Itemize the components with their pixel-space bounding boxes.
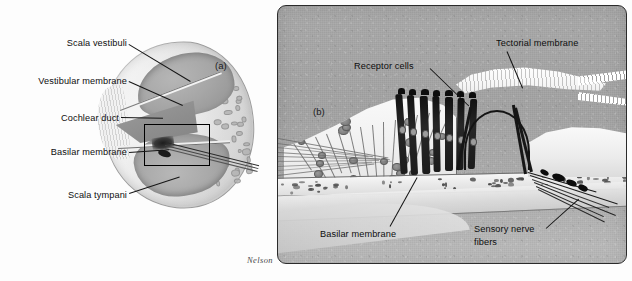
basilar-speckle bbox=[503, 182, 508, 184]
hair-cell-nucleus bbox=[399, 126, 406, 134]
basilar-speckle bbox=[292, 183, 298, 186]
basilar-speckle bbox=[281, 183, 284, 185]
artist-signature: Nelson bbox=[247, 255, 273, 265]
bone-speckle bbox=[243, 142, 250, 147]
hair-cell-nucleus bbox=[446, 134, 453, 142]
bone-speckle bbox=[224, 109, 233, 115]
hair-cell-nucleus bbox=[434, 132, 441, 140]
label-receptor-cells: Receptor cells bbox=[354, 61, 414, 72]
basilar-speckle bbox=[345, 185, 348, 189]
basilar-speckle bbox=[382, 181, 385, 185]
bone-speckle bbox=[221, 123, 229, 130]
bone-speckle bbox=[235, 131, 243, 137]
basilar-speckle bbox=[308, 185, 313, 187]
basilar-speckle bbox=[290, 191, 292, 194]
bone-speckle bbox=[236, 96, 243, 101]
stereocilia-tuft bbox=[409, 89, 416, 95]
bone-speckle bbox=[242, 148, 251, 156]
basilar-speckle bbox=[444, 182, 446, 186]
label-basilar-membrane: Basilar membrane bbox=[0, 147, 127, 158]
basilar-speckle bbox=[398, 181, 403, 183]
basilar-speckle bbox=[487, 183, 490, 185]
basilar-speckle bbox=[315, 181, 318, 183]
basilar-speckle bbox=[437, 179, 442, 181]
label-vestibular-membrane: Vestibular membrane bbox=[0, 76, 127, 87]
basilar-speckle bbox=[333, 185, 338, 188]
stereocilia-tuft bbox=[398, 88, 405, 94]
label-scala-tympani: Scala tympani bbox=[0, 190, 127, 201]
basilar-speckle bbox=[299, 181, 304, 183]
magnified-region-box bbox=[144, 124, 210, 166]
basilar-speckle bbox=[309, 188, 315, 191]
hair-cell-nucleus bbox=[422, 130, 429, 138]
label-cochlear-duct: Cochlear duct bbox=[0, 113, 119, 124]
basilar-speckle bbox=[317, 191, 320, 194]
basilar-speckle bbox=[494, 179, 499, 182]
hair-cell-nucleus bbox=[410, 128, 417, 136]
stereocilia-tuft bbox=[445, 90, 453, 96]
bone-speckle bbox=[233, 178, 240, 184]
label-sensory-nerve-fibers-line1: Sensory nerve bbox=[474, 224, 535, 235]
stereocilia-tuft bbox=[469, 92, 476, 98]
basilar-speckle bbox=[315, 184, 321, 187]
stereocilia-tuft bbox=[433, 90, 440, 96]
hair-cell-column bbox=[395, 94, 407, 174]
basilar-speckle bbox=[389, 182, 391, 184]
cochlea-illustration bbox=[96, 38, 256, 213]
stereocilia-tuft bbox=[421, 89, 429, 95]
panel-a-tag: (a) bbox=[215, 60, 227, 71]
panel-a-cochlea-cross-section: (a) Scala vestibuli Vestibular membrane … bbox=[0, 0, 275, 281]
label-sensory-nerve-fibers-line2: fibers bbox=[474, 237, 497, 248]
bone-speckle bbox=[235, 105, 241, 111]
basilar-speckle bbox=[441, 183, 444, 186]
sensory-nerve-fiber-bundle bbox=[526, 168, 627, 198]
label-scala-vestibuli: Scala vestibuli bbox=[0, 38, 127, 49]
anatomy-figure: (a) Scala vestibuli Vestibular membrane … bbox=[0, 0, 632, 281]
bone-speckle bbox=[241, 116, 248, 123]
label-tectorial-membrane: Tectorial membrane bbox=[496, 38, 578, 49]
bone-speckle bbox=[231, 169, 240, 177]
bone-speckle bbox=[231, 135, 236, 143]
basilar-speckle bbox=[470, 178, 477, 182]
panel-b-tag: (b) bbox=[313, 106, 325, 117]
basilar-speckle bbox=[389, 184, 392, 188]
label-basilar-membrane-b: Basilar membrane bbox=[320, 229, 396, 240]
panel-b-organ-of-corti: (b) Receptor cells Tectorial membrane Ba… bbox=[277, 5, 627, 264]
